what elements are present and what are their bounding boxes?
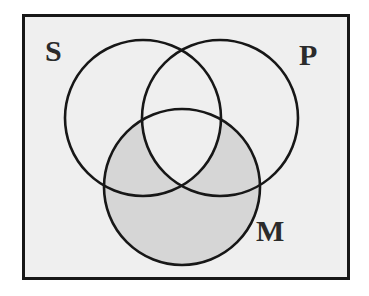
set-label-s: S bbox=[45, 36, 62, 66]
venn-diagram-figure: S P M bbox=[0, 0, 369, 296]
set-label-m: M bbox=[256, 216, 284, 246]
set-label-p: P bbox=[299, 40, 317, 70]
